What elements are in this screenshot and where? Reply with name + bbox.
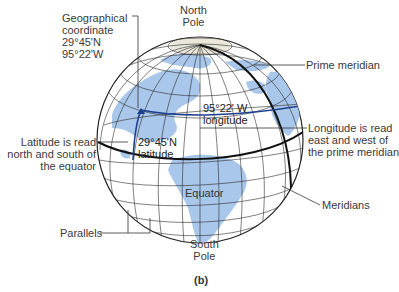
panel-label: (b) [194,274,208,286]
north-pole-line: Pole [180,16,207,28]
meridians-label: Meridians [322,199,370,211]
latitude-note-line: Latitude is read [6,136,96,148]
longitude-note-label: Longitude is read east and west of the p… [308,122,399,158]
parallels-label: Parallels [60,227,102,239]
south-pole-label: South Pole [190,238,219,262]
longitude-value-line: longitude [203,114,248,126]
latitude-note-label: Latitude is read north and south of the … [6,136,96,172]
longitude-value-line: 95°22' W [203,102,248,114]
south-pole-line: Pole [190,250,219,262]
geo-coordinate-lat: 29°45'N [62,36,127,48]
latitude-value-label: 29°45'N latitude [138,136,177,160]
geo-coordinate-label: Geographical coordinate 29°45'N 95°22'W [62,12,127,60]
geo-coordinate-line: Geographical [62,12,127,24]
latitude-value-line: 29°45'N [138,136,177,148]
latitude-value-line: latitude [138,148,177,160]
north-pole-label: North Pole [180,4,207,28]
prime-meridian-label: Prime meridian [306,59,380,71]
south-pole-line: South [190,238,219,250]
geo-coordinate-lon: 95°22'W [62,48,127,60]
longitude-note-line: Longitude is read [308,122,399,134]
latitude-note-line: the equator [6,160,96,172]
latitude-note-line: north and south of [6,148,96,160]
meridians-leader [282,186,320,205]
longitude-value-label: 95°22' W longitude [203,102,248,126]
equator-label: Equator [185,187,224,199]
geo-coordinate-line: coordinate [62,24,127,36]
north-pole-line: North [180,4,207,16]
longitude-note-line: east and west of [308,134,399,146]
longitude-note-line: the prime meridian [308,146,399,158]
